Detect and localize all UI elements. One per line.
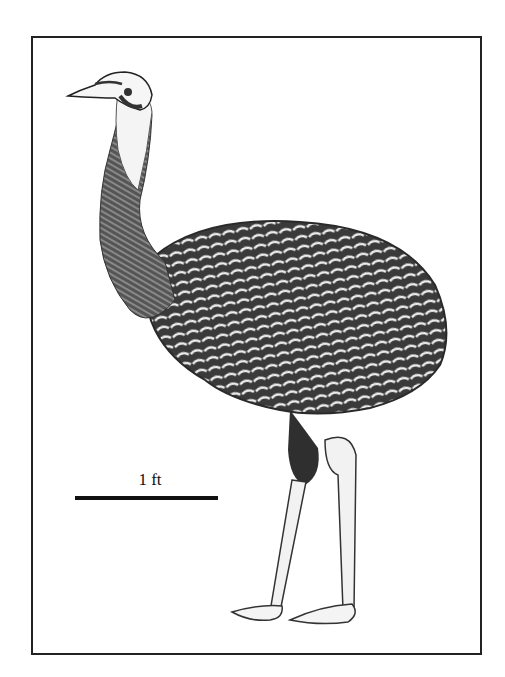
bird-leg-right (325, 437, 356, 610)
scale-bar (75, 496, 218, 500)
bird-leg-left (270, 480, 306, 612)
scale-bar-label: 1 ft (110, 470, 190, 490)
bird-body (146, 221, 446, 413)
bird-head (68, 72, 152, 110)
bird-foot-left (232, 606, 282, 621)
bird-thigh (288, 410, 319, 485)
rhea-bird-illustration (0, 0, 505, 677)
bird-eye (124, 88, 132, 96)
bird-foot-right (290, 604, 355, 624)
